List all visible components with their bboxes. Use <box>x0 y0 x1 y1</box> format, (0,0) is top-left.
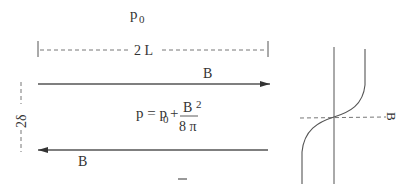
profile-horizontal-axis <box>300 117 386 118</box>
field-profile-plot: B <box>300 47 399 184</box>
bottom-field-label: B <box>78 154 87 169</box>
length-dimension: 2 L <box>38 41 268 58</box>
thickness-label: 2δ <box>14 114 29 128</box>
svg-text:p: p <box>130 6 138 22</box>
top-field-label: B <box>203 66 212 81</box>
svg-text:0: 0 <box>163 113 169 125</box>
profile-axis-label: B <box>384 112 399 121</box>
svg-text:8 π: 8 π <box>179 119 197 134</box>
svg-text:+: + <box>170 105 178 121</box>
length-label: 2 L <box>134 43 153 58</box>
pressure-equation: p = p 0 + B 2 8 π <box>136 98 202 134</box>
svg-text:0: 0 <box>139 13 145 25</box>
external-pressure-label: p 0 <box>130 6 145 25</box>
svg-text:2: 2 <box>196 98 202 110</box>
diagram-svg: p 0 2 L B B 2δ p = p 0 + B 2 8 π B <box>0 0 405 194</box>
svg-text:B: B <box>183 100 192 115</box>
current-sheet-diagram: p 0 2 L B B 2δ p = p 0 + B 2 8 π B <box>0 0 405 194</box>
thickness-dimension: 2δ <box>14 82 29 152</box>
